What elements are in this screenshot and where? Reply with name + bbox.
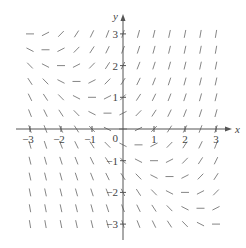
y-tick-label: −2 <box>106 186 118 198</box>
x-tick-label: 1 <box>151 133 157 145</box>
slope-segment <box>136 94 140 101</box>
slope-segment <box>91 173 94 180</box>
y-axis-label: y <box>112 10 118 22</box>
x-tick-label: 2 <box>182 133 188 145</box>
slope-segment <box>200 78 202 86</box>
slope-segment <box>137 205 141 212</box>
slope-segment <box>184 93 186 101</box>
slope-segment <box>106 173 110 180</box>
slope-segment <box>215 78 217 86</box>
slope-segment <box>200 30 201 38</box>
slope-segment <box>29 188 31 196</box>
slope-segment <box>91 204 93 212</box>
y-tick-label: 1 <box>113 91 119 103</box>
slope-segment <box>29 173 31 181</box>
slope-segment <box>153 30 155 38</box>
slope-segment <box>213 190 219 196</box>
slope-segment <box>90 157 94 164</box>
slope-segment <box>105 142 111 148</box>
slope-segment <box>214 157 218 164</box>
x-axis-arrow-icon <box>225 127 232 132</box>
slope-segment <box>215 109 217 117</box>
slope-segment <box>152 110 156 117</box>
slope-segment <box>181 206 188 210</box>
slope-segment <box>27 63 33 69</box>
slope-segment <box>169 30 171 38</box>
slope-segment <box>199 109 201 117</box>
slope-segment <box>75 189 77 197</box>
slope-segment <box>137 46 139 54</box>
slope-segment <box>45 188 47 196</box>
slope-segment <box>105 62 109 69</box>
slope-segment <box>168 62 170 70</box>
slope-segment <box>43 94 47 101</box>
slope-segment <box>29 109 32 116</box>
slope-segment <box>104 95 111 99</box>
slope-segment <box>135 159 142 163</box>
slope-segment <box>42 32 49 36</box>
slope-segment <box>26 48 33 52</box>
x-tick-label: 3 <box>213 133 219 145</box>
slope-segment <box>43 79 49 85</box>
slope-segment <box>29 204 30 212</box>
y-tick-label: 3 <box>113 28 119 40</box>
slope-segment <box>105 79 111 85</box>
slope-segment <box>88 111 95 115</box>
slope-segment <box>168 78 170 86</box>
slope-segment <box>152 205 156 212</box>
slope-segment <box>215 30 216 38</box>
slope-segment <box>91 189 93 197</box>
slope-segment <box>76 204 78 212</box>
slope-segment <box>44 110 48 117</box>
x-axis-label: x <box>234 123 240 135</box>
slope-segment <box>198 157 202 164</box>
slope-segment <box>59 110 63 117</box>
slope-segment <box>215 62 217 70</box>
slope-segment <box>57 80 64 84</box>
slope-segment <box>42 64 49 68</box>
x-tick-label: −2 <box>53 133 65 145</box>
slope-segment <box>73 95 80 99</box>
slope-segment <box>197 191 204 195</box>
slope-segment <box>212 206 219 210</box>
y-tick-label: −1 <box>106 155 118 167</box>
slope-segment <box>75 173 77 181</box>
slope-segment <box>198 174 204 180</box>
slope-segment <box>169 46 171 54</box>
slope-segment <box>136 174 142 180</box>
y-tick-label: −3 <box>106 218 118 230</box>
slope-segment <box>152 94 156 101</box>
axis-labels: −3−2−1123321−1−2−30xy <box>22 10 240 230</box>
slope-segment <box>137 30 139 38</box>
slope-segment <box>90 30 94 37</box>
slope-segment <box>166 159 173 163</box>
slope-segment <box>137 62 140 69</box>
slope-segment <box>215 93 217 101</box>
slope-segment <box>88 80 95 84</box>
slope-segment <box>44 157 46 165</box>
slope-segment <box>184 78 186 86</box>
slope-segment <box>199 141 203 148</box>
slope-segment <box>200 46 202 54</box>
slope-segment <box>91 220 93 228</box>
slope-segment <box>166 191 173 195</box>
slope-segment <box>58 94 64 100</box>
slope-segment <box>151 190 157 196</box>
slope-segment <box>184 30 186 38</box>
slope-segment <box>184 62 186 70</box>
slope-segment <box>215 46 216 54</box>
slope-segment <box>75 157 78 164</box>
slope-segment <box>197 222 204 226</box>
slope-segment <box>153 62 155 70</box>
slope-segment <box>136 189 140 196</box>
slope-segment <box>60 204 62 212</box>
slope-segment <box>153 46 155 54</box>
slope-segment <box>150 175 157 179</box>
slope-segment <box>137 78 141 85</box>
slope-segment <box>182 158 188 164</box>
slope-segment <box>74 110 80 116</box>
slope-segment <box>167 205 173 211</box>
slope-segment <box>74 47 80 53</box>
slope-segment <box>137 220 140 227</box>
slope-segment <box>58 31 64 37</box>
